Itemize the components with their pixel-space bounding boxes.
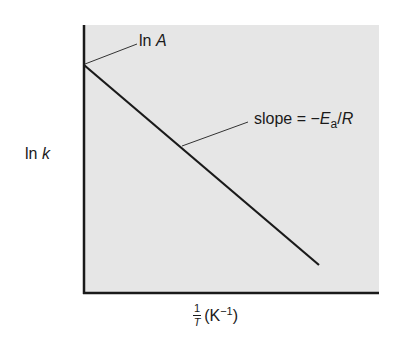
x-axis-units: (K−1) (204, 308, 238, 324)
x-axis-fraction-denominator: T (194, 316, 201, 328)
y-axis-label-prefix: ln (25, 145, 42, 162)
slope-annotation: slope = −Ea/R (254, 111, 353, 127)
intercept-annotation-prefix: ln (139, 32, 156, 49)
intercept-annotation-variable: A (156, 32, 167, 49)
intercept-annotation: ln A (139, 33, 167, 49)
x-axis-units-open: (K (204, 307, 220, 324)
slope-annotation-subscript: a (331, 117, 338, 131)
y-axis-label-variable: k (42, 145, 50, 162)
x-axis-label: 1 T (K−1) (193, 303, 238, 328)
x-axis-units-exponent: −1 (220, 305, 233, 317)
x-axis-fraction-numerator: 1 (193, 303, 201, 316)
x-axis-units-close: ) (233, 307, 238, 324)
slope-annotation-energy: E (320, 110, 331, 127)
arrhenius-chart (0, 0, 400, 353)
plot-area (84, 25, 379, 293)
slope-annotation-gas-constant: R (342, 110, 354, 127)
x-axis-fraction: 1 T (193, 303, 201, 328)
slope-annotation-prefix: slope = − (254, 110, 320, 127)
y-axis-label: ln k (25, 146, 50, 162)
